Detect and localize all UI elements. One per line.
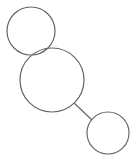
diagram-canvas [0,0,139,159]
edges-layer [74,103,92,120]
edge-node-middle-node-bottom [74,103,92,120]
node-bottom [87,112,129,154]
node-middle [20,48,84,112]
nodes-layer [7,7,129,154]
